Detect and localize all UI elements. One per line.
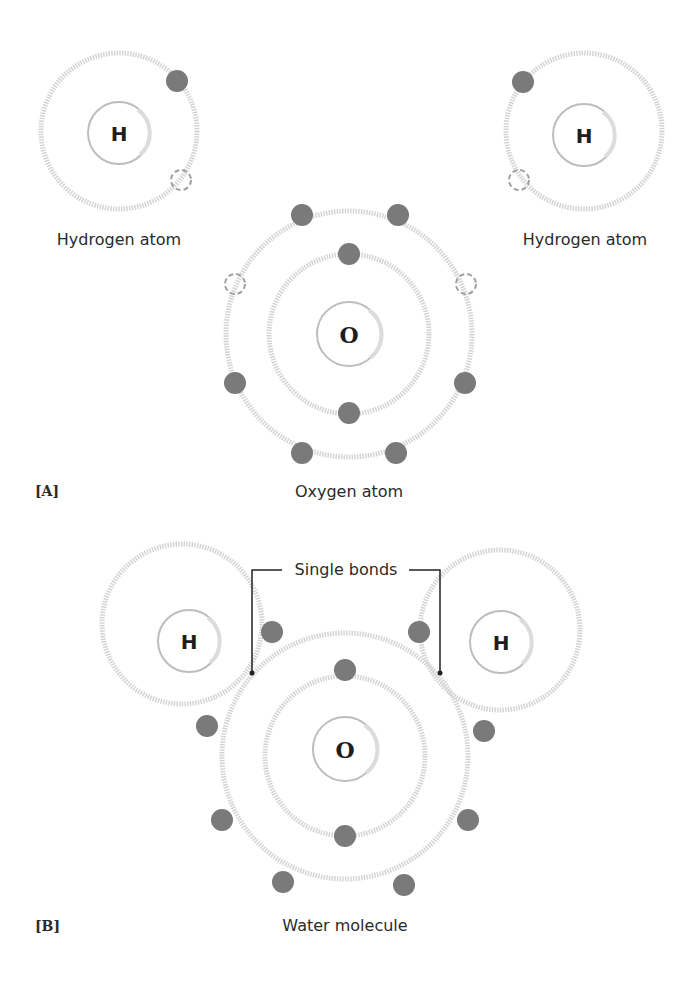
- electron: [457, 809, 479, 831]
- electron: [334, 825, 356, 847]
- single-bonds-callout: Single bonds: [292, 560, 401, 579]
- electron: [338, 402, 360, 424]
- element-symbol: H: [576, 124, 593, 148]
- oxygen-atom-label: Oxygen atom: [295, 482, 403, 501]
- oxygen-atom: O: [224, 204, 476, 464]
- hydrogen-atom-left: H: [41, 53, 197, 209]
- panel-b-tag: [B]: [35, 918, 60, 934]
- element-symbol: O: [335, 737, 354, 763]
- electron: [211, 809, 233, 831]
- leader-dot-right: [438, 671, 443, 676]
- panel-a-tag: [A]: [35, 483, 59, 499]
- electron: [272, 871, 294, 893]
- electron: [291, 204, 313, 226]
- hydrogen-right-label: Hydrogen atom: [523, 230, 647, 249]
- hydrogen-left-label: Hydrogen atom: [57, 230, 181, 249]
- electron: [387, 204, 409, 226]
- water-molecule: H H O: [102, 544, 580, 896]
- electron: [454, 372, 476, 394]
- electron: [334, 659, 356, 681]
- electron: [512, 71, 534, 93]
- electron: [385, 442, 407, 464]
- electron: [393, 874, 415, 896]
- element-symbol: O: [339, 322, 358, 348]
- shared-electron: [196, 715, 218, 737]
- element-symbol: H: [493, 631, 510, 655]
- water-molecule-label: Water molecule: [282, 916, 407, 935]
- shared-electron: [473, 720, 495, 742]
- hydrogen-atom-right: H: [506, 53, 662, 209]
- electron: [338, 243, 360, 265]
- electron: [224, 372, 246, 394]
- element-symbol: H: [181, 630, 198, 654]
- leader-dot-left: [250, 671, 255, 676]
- element-symbol: H: [111, 122, 128, 146]
- electron: [166, 70, 188, 92]
- shared-electron: [408, 621, 430, 643]
- leader-line-right: [409, 570, 440, 673]
- shared-electron: [261, 621, 283, 643]
- electron: [291, 442, 313, 464]
